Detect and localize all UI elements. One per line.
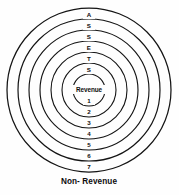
upper-ring-label-S3: S bbox=[87, 66, 91, 73]
lower-ring-label-4: 4 bbox=[87, 130, 91, 137]
upper-ring-label-A: A bbox=[87, 11, 92, 18]
concentric-rings-svg: A S S E T S Revenue 1 2 3 4 5 6 7 Non- R… bbox=[0, 0, 179, 195]
target-diagram: A S S E T S Revenue 1 2 3 4 5 6 7 Non- R… bbox=[0, 0, 179, 195]
upper-ring-label-S2: S bbox=[87, 33, 91, 40]
upper-ring-label-T: T bbox=[87, 55, 91, 62]
lower-ring-label-3: 3 bbox=[87, 119, 91, 126]
lower-ring-label-6: 6 bbox=[87, 152, 91, 159]
lower-ring-label-5: 5 bbox=[87, 141, 91, 148]
upper-ring-label-S1: S bbox=[87, 22, 91, 29]
bottom-caption: Non- Revenue bbox=[61, 177, 118, 186]
lower-ring-label-7: 7 bbox=[87, 163, 91, 170]
lower-ring-label-2: 2 bbox=[87, 108, 91, 115]
lower-ring-label-1: 1 bbox=[87, 97, 91, 104]
center-revenue-label: Revenue bbox=[76, 86, 102, 93]
upper-ring-label-E: E bbox=[87, 44, 91, 51]
